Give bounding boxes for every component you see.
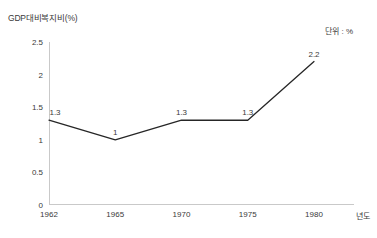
y-axis-tick-labels: 00.511.522.5 <box>18 42 43 205</box>
data-point-label: 1.3 <box>242 108 253 117</box>
series-polyline <box>49 62 314 140</box>
y-axis-tick-label: 0 <box>39 201 43 210</box>
x-axis-tick-labels: 19621965197019751980 <box>49 210 336 224</box>
data-point-label: 1.3 <box>49 108 60 117</box>
y-axis-tick-label: 2.5 <box>32 38 43 47</box>
y-axis-tick-label: 0.5 <box>32 168 43 177</box>
unit-annotation: 단위 : % <box>325 25 353 36</box>
chart-title: GDP대비복지비(%) <box>8 11 77 23</box>
data-point-label: 2.2 <box>308 50 319 59</box>
x-axis-title: 년도 <box>356 210 370 221</box>
x-axis-tick-label: 1970 <box>173 210 191 219</box>
x-axis-tick-label: 1962 <box>40 210 58 219</box>
x-axis-tick-label: 1965 <box>106 210 124 219</box>
y-axis-tick-label: 2 <box>39 70 43 79</box>
data-point-label: 1.3 <box>176 108 187 117</box>
data-series-line <box>49 42 336 205</box>
x-axis-extension-line <box>336 204 354 205</box>
y-axis-tick-label: 1 <box>39 135 43 144</box>
data-point-label: 1 <box>113 128 117 137</box>
x-axis-tick-label: 1975 <box>239 210 257 219</box>
y-axis-tick-label: 1.5 <box>32 103 43 112</box>
plot-area <box>49 42 336 205</box>
welfare-expenditure-line-chart: GDP대비복지비(%) 단위 : % 00.511.522.5 19621965… <box>0 0 377 238</box>
x-axis-tick-label: 1980 <box>305 210 323 219</box>
